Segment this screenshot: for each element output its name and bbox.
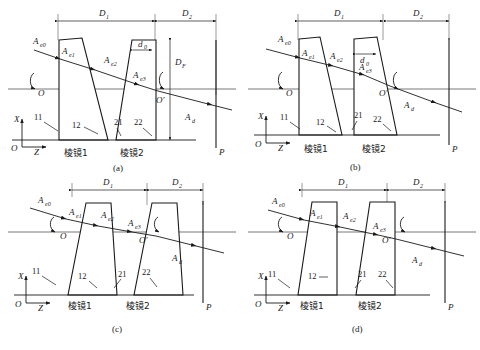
rotation-arrow-o-prime bbox=[400, 217, 405, 232]
label-axis-z: Z bbox=[278, 143, 284, 153]
label-ray-ae1: A bbox=[301, 48, 308, 58]
ray-incident bbox=[34, 50, 60, 59]
label-ray-ae0-sub: e0 bbox=[285, 40, 291, 46]
label-d1: D bbox=[333, 8, 341, 18]
leader-11 bbox=[278, 279, 290, 288]
label-prism-2-name: 棱镜2 bbox=[362, 143, 386, 154]
label-d1-sub: 1 bbox=[341, 14, 344, 20]
figure-four-panel-prism-diagram: D 1 D 2 d 0 D F A bbox=[0, 0, 480, 350]
label-ray-ad-sub: d bbox=[192, 118, 196, 124]
caption-b: (b) bbox=[350, 162, 361, 172]
label-ray-ae3-sub: e3 bbox=[140, 76, 146, 82]
label-d0: d bbox=[138, 39, 143, 49]
prism-2 bbox=[134, 203, 183, 295]
label-ray-ae1-sub: e1 bbox=[309, 54, 315, 60]
label-ray-ae3-sub: e3 bbox=[380, 227, 386, 233]
label-screen-p: P bbox=[205, 302, 212, 312]
label-ray-ad: A bbox=[184, 112, 191, 122]
label-point-o-prime: O' bbox=[379, 88, 388, 98]
label-axis-x: X bbox=[257, 111, 264, 121]
label-axis-x: X bbox=[257, 271, 264, 281]
label-ray-ad-sub: d bbox=[411, 106, 415, 112]
ray-exit bbox=[396, 239, 436, 249]
label-axis-z: Z bbox=[38, 303, 44, 313]
label-surface-22: 22 bbox=[142, 267, 151, 277]
label-prism-1-name: 棱镜1 bbox=[64, 147, 88, 158]
rotation-arrow-o-prime bbox=[393, 72, 398, 89]
label-ray-ae0: A bbox=[32, 36, 39, 46]
ray-incident bbox=[30, 208, 66, 219]
label-df: D bbox=[174, 57, 182, 67]
ray-incident bbox=[268, 210, 304, 220]
label-point-o: O bbox=[38, 88, 45, 98]
rotation-arrow-o bbox=[278, 217, 283, 232]
label-prism-1-name: 棱镜1 bbox=[304, 143, 328, 154]
label-ray-ae3: A bbox=[358, 62, 365, 72]
rotation-arrow-o-prime bbox=[159, 72, 164, 89]
label-ray-ae2-sub: e2 bbox=[350, 217, 356, 223]
panel-b: D 1 D 2 d 0 A e0 A e1 A e2 A e3 A bbox=[240, 0, 480, 175]
label-ray-ad: A bbox=[411, 255, 418, 265]
label-prism-1-name: 棱镜1 bbox=[68, 300, 92, 311]
label-ray-ad: A bbox=[403, 100, 410, 110]
label-surface-12: 12 bbox=[72, 120, 81, 130]
rotation-arrow-o bbox=[278, 72, 283, 89]
label-surface-22: 22 bbox=[134, 117, 143, 127]
label-axis-x: X bbox=[17, 271, 24, 281]
label-ray-ae2: A bbox=[342, 211, 349, 221]
label-ray-ae2-sub: e2 bbox=[111, 61, 117, 67]
ray-to-screen bbox=[212, 105, 232, 110]
label-surface-22: 22 bbox=[378, 269, 387, 279]
label-ray-ae2: A bbox=[329, 51, 336, 61]
label-ray-ae2-sub: e2 bbox=[108, 216, 114, 222]
label-screen-p: P bbox=[447, 302, 454, 312]
label-ray-ae1: A bbox=[61, 46, 68, 56]
ray-incident bbox=[266, 49, 300, 58]
label-axis-origin: O bbox=[15, 299, 22, 309]
leader-11 bbox=[42, 276, 56, 285]
label-screen-p: P bbox=[451, 144, 458, 154]
label-axis-x: X bbox=[13, 114, 20, 124]
label-point-o: O bbox=[60, 231, 67, 241]
label-ray-ae3-sub: e3 bbox=[366, 68, 372, 74]
label-d2: D bbox=[412, 177, 420, 187]
label-surface-22: 22 bbox=[373, 114, 382, 124]
label-ray-ae0-sub: e0 bbox=[45, 201, 51, 207]
label-ray-ae0-sub: e0 bbox=[279, 202, 285, 208]
label-surface-11: 11 bbox=[268, 269, 276, 279]
rotation-arrow-o bbox=[50, 217, 55, 232]
label-axis-z: Z bbox=[278, 303, 284, 313]
label-ray-ae2: A bbox=[100, 210, 107, 220]
label-prism-2-name: 棱镜2 bbox=[358, 300, 382, 311]
label-point-o-prime: O' bbox=[139, 235, 148, 245]
prism-2 bbox=[356, 202, 395, 295]
label-ray-ae3: A bbox=[372, 221, 379, 231]
label-d1: D bbox=[98, 8, 106, 18]
label-d1-sub: 1 bbox=[106, 14, 109, 20]
label-ray-ae1: A bbox=[68, 207, 75, 217]
label-d0-sub: 0 bbox=[366, 61, 369, 67]
label-prism-1-name: 棱镜1 bbox=[300, 300, 324, 311]
label-surface-11: 11 bbox=[32, 266, 40, 276]
panel-c: D 1 D 2 A e0 A e1 A e2 A e3 A d bbox=[0, 175, 240, 350]
ray-exit bbox=[158, 91, 212, 105]
label-point-o-prime: O' bbox=[382, 235, 391, 245]
label-prism-2-name: 棱镜2 bbox=[120, 147, 144, 158]
panel-a: D 1 D 2 d 0 D F A bbox=[0, 0, 240, 175]
label-ray-ae1-sub: e1 bbox=[69, 52, 75, 58]
label-surface-12: 12 bbox=[316, 117, 325, 127]
label-ray-ae3-sub: e3 bbox=[135, 224, 141, 230]
label-d2: D bbox=[181, 8, 189, 18]
label-d2-sub: 2 bbox=[189, 14, 192, 20]
label-ray-ad: A bbox=[171, 253, 178, 263]
label-surface-12: 12 bbox=[78, 271, 87, 281]
ray-to-screen bbox=[196, 246, 224, 253]
label-ray-ae2: A bbox=[103, 55, 110, 65]
label-surface-21: 21 bbox=[118, 269, 127, 279]
label-point-o: O bbox=[287, 231, 294, 241]
label-surface-21: 21 bbox=[358, 269, 367, 279]
label-ray-ae0: A bbox=[271, 196, 278, 206]
label-d2-sub: 2 bbox=[179, 183, 182, 189]
rotation-arrow-o bbox=[30, 73, 35, 89]
label-d2: D bbox=[171, 177, 179, 187]
